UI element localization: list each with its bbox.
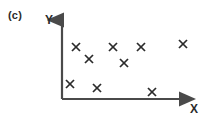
y-axis-label: Y — [45, 14, 53, 26]
data-point-marker — [109, 43, 117, 51]
data-point-marker — [93, 84, 101, 92]
x-axis-label: X — [190, 103, 198, 115]
data-point-marker — [85, 55, 93, 63]
scatter-plot-figure: (c) Y X — [0, 0, 206, 120]
data-point-marker — [120, 59, 128, 67]
data-point-marker — [72, 43, 80, 51]
data-point-marker — [148, 88, 156, 96]
data-point-group — [66, 40, 187, 96]
data-point-marker — [137, 43, 145, 51]
plot-area — [0, 0, 206, 120]
data-point-marker — [66, 80, 74, 88]
data-point-marker — [179, 40, 187, 48]
